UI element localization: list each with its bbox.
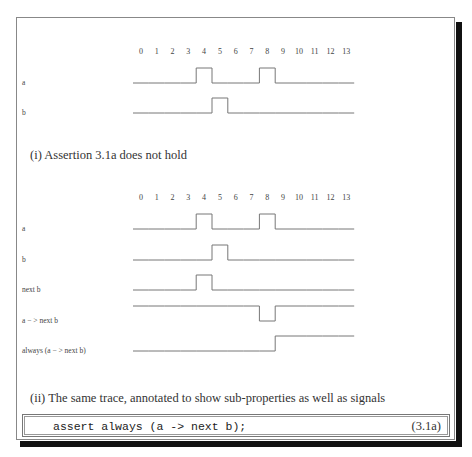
signal-label: b xyxy=(22,108,26,117)
signal-waveform xyxy=(133,245,354,260)
time-tick-label: 8 xyxy=(265,193,269,202)
signal-label: a xyxy=(22,224,26,233)
time-tick-label: 11 xyxy=(311,47,319,56)
time-tick-label: 4 xyxy=(202,47,206,56)
timing-diagrams: 012345678910111213ab (i) Assertion 3.1a … xyxy=(0,0,472,457)
time-tick-label: 12 xyxy=(327,193,335,202)
caption-panel-i: (i) Assertion 3.1a does not hold xyxy=(30,148,188,162)
time-tick-label: 4 xyxy=(202,193,206,202)
time-tick-label: 13 xyxy=(342,47,350,56)
timing-diagram-panel-i: 012345678910111213ab xyxy=(22,47,354,117)
assertion-code-box: assert always (a -> next b); (3.1a) xyxy=(22,414,450,437)
time-tick-label: 12 xyxy=(327,47,335,56)
signal-waveform xyxy=(133,336,354,351)
signal-waveform xyxy=(133,98,354,113)
signal-label: a − > next b xyxy=(22,316,58,325)
time-tick-label: 9 xyxy=(281,47,285,56)
time-tick-label: 5 xyxy=(218,47,222,56)
time-tick-label: 1 xyxy=(155,47,159,56)
figure: 012345678910111213ab (i) Assertion 3.1a … xyxy=(0,0,472,457)
time-tick-label: 10 xyxy=(295,193,303,202)
time-tick-label: 6 xyxy=(234,193,238,202)
time-tick-label: 10 xyxy=(295,47,303,56)
signal-waveform xyxy=(133,275,354,290)
time-tick-label: 9 xyxy=(281,193,285,202)
time-tick-label: 3 xyxy=(186,193,190,202)
time-tick-label: 5 xyxy=(218,193,222,202)
caption-panel-ii: (ii) The same trace, annotated to show s… xyxy=(30,391,385,405)
time-tick-label: 0 xyxy=(139,193,143,202)
equation-number: (3.1a) xyxy=(412,419,442,434)
timing-diagram-panel-ii: 012345678910111213abnext ba − > next bal… xyxy=(22,193,354,355)
signal-waveform xyxy=(133,306,354,321)
assertion-code-inner: assert always (a -> next b); (3.1a) xyxy=(24,416,448,435)
signal-label: b xyxy=(22,255,26,264)
time-tick-label: 7 xyxy=(250,193,254,202)
time-tick-label: 8 xyxy=(265,47,269,56)
time-tick-label: 7 xyxy=(250,47,254,56)
signal-label: next b xyxy=(22,285,41,294)
signal-waveform xyxy=(133,68,354,83)
signal-waveform xyxy=(133,214,354,229)
time-tick-label: 3 xyxy=(186,47,190,56)
time-tick-label: 6 xyxy=(234,47,238,56)
time-tick-label: 2 xyxy=(171,193,175,202)
time-tick-label: 1 xyxy=(155,193,159,202)
time-tick-label: 0 xyxy=(139,47,143,56)
time-tick-label: 13 xyxy=(342,193,350,202)
time-tick-label: 2 xyxy=(171,47,175,56)
time-tick-label: 11 xyxy=(311,193,319,202)
assertion-code: assert always (a -> next b); xyxy=(53,420,246,433)
signal-label: always (a − > next b) xyxy=(22,346,86,355)
signal-label: a xyxy=(22,78,26,87)
